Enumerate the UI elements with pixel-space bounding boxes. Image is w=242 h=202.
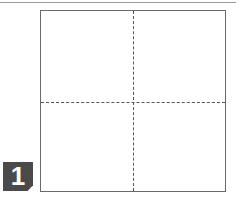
step-number-badge: 1 — [3, 162, 33, 191]
vertical-fold-line — [133, 11, 134, 191]
horizontal-fold-line — [41, 102, 225, 103]
top-divider — [0, 2, 236, 3]
paper-square — [40, 10, 226, 192]
